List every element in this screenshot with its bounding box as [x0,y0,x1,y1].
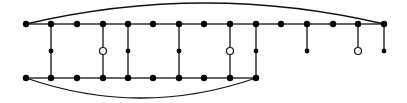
bottom-node [23,75,29,81]
bottom-node [176,75,182,81]
top-node [48,21,54,27]
rung-node [254,49,259,54]
edges [28,24,385,78]
top-node [278,21,284,27]
top-node [23,21,29,27]
rung-node [177,49,182,54]
top-node [355,21,361,27]
top-node [100,21,106,27]
pendant-node [305,49,310,54]
bottom-node [74,75,80,81]
arcs [26,3,384,98]
pendant-hollow-node [355,48,362,55]
bottom-node [227,75,233,81]
bottom-node [253,75,259,81]
nodes [23,21,387,81]
bottom-node [48,75,54,81]
bottom-arc [26,78,256,98]
top-arc [26,3,384,24]
top-node [381,21,387,27]
bottom-node [125,75,131,81]
top-node [304,21,310,27]
bottom-node [150,75,156,81]
bottom-node [100,75,106,81]
pendant-node [382,49,387,54]
top-node [253,21,259,27]
rung-node [126,49,131,54]
top-node [150,21,156,27]
top-node [227,21,233,27]
rung-hollow-node [227,48,234,55]
top-node [125,21,131,27]
top-node [176,21,182,27]
top-node [201,21,207,27]
bottom-node [201,75,207,81]
rung-hollow-node [100,48,107,55]
top-node [74,21,80,27]
rung-node [49,49,54,54]
graph-diagram [0,0,407,103]
top-node [330,21,336,27]
